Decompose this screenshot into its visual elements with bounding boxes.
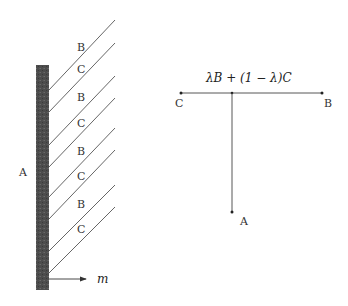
diagram-canvas: B C B C B C B C A m λB + (1 − λ)C C B A	[0, 0, 348, 306]
stripe-line	[49, 207, 115, 273]
stripe-label: C	[77, 223, 85, 236]
stripe-label: B	[77, 91, 85, 104]
label-A: A	[239, 215, 249, 228]
wall-label: A	[18, 166, 28, 179]
label-C: C	[175, 97, 183, 110]
stripe-line	[49, 185, 115, 251]
arrow-label: m	[97, 272, 108, 286]
stripe-label: B	[77, 41, 85, 54]
stripe-line	[49, 76, 115, 145]
stripe-label: C	[77, 170, 85, 183]
point-A	[231, 211, 234, 214]
stripe-line	[49, 128, 115, 197]
stripe-label: B	[77, 145, 85, 158]
point-B	[321, 92, 324, 95]
stripe-line	[49, 20, 115, 90]
point-C	[180, 92, 183, 95]
label-B: B	[324, 97, 332, 110]
stripe-label: B	[77, 198, 85, 211]
combination-label: λB + (1 − λ)C	[205, 71, 292, 85]
stripe-label: C	[77, 117, 85, 130]
wall-A	[36, 65, 49, 290]
stripe-label: C	[77, 63, 85, 76]
